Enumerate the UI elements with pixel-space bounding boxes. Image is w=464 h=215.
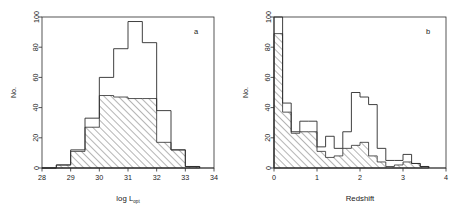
panel-a-label: a [194,27,199,36]
b-y-tick-label: 60 [264,73,273,81]
b-x-tick-label: 1 [315,173,319,182]
histogram-panel-b: 02040608010001234 No. Redshift b [232,0,464,215]
a-x-tick-label: 28 [38,173,46,182]
b-y-tick-label: 0 [264,166,273,170]
a-y-tick-label: 40 [32,104,41,112]
b-y-tick-label: 40 [264,104,273,112]
a-y-tick-label: 80 [32,43,41,51]
a-x-tick-label: 34 [210,173,218,182]
a-x-tick-label: 30 [95,173,103,182]
panel-a-svg: 02040608010028293031323334 No. log Lopt … [0,0,232,215]
a-y-tick-label: 20 [32,134,41,142]
b-x-tick-label: 3 [401,173,405,182]
b-x-tick-label: 0 [272,173,276,182]
panel-b-label: b [426,27,430,36]
histogram-panel-a: 02040608010028293031323334 No. log Lopt … [0,0,232,215]
a-x-tick-label: 29 [67,173,75,182]
panel-b-y-axis-title: No. [241,87,250,98]
a-x-tick-label: 31 [124,173,132,182]
b-y-tick-label: 80 [264,43,273,51]
a-x-tick-label: 33 [181,173,189,182]
panel-a-y-axis-title: No. [9,87,18,98]
figure-container: 02040608010028293031323334 No. log Lopt … [0,0,464,215]
b-x-tick-label: 4 [444,173,448,182]
a-y-tick-label: 0 [32,166,41,170]
a-x-tick-label: 32 [153,173,161,182]
b-y-tick-label: 20 [264,134,273,142]
a-y-tick-label: 100 [32,11,41,23]
panel-a-x-axis-title: log Lopt [116,194,140,204]
b-y-tick-label: 100 [264,11,273,23]
panel-b-x-axis-title: Redshift [346,194,375,203]
panel-b-svg: 02040608010001234 No. Redshift b [232,0,464,215]
b-x-tick-label: 2 [358,173,362,182]
a-y-tick-label: 60 [32,73,41,81]
a-hatched-histogram [42,96,200,168]
